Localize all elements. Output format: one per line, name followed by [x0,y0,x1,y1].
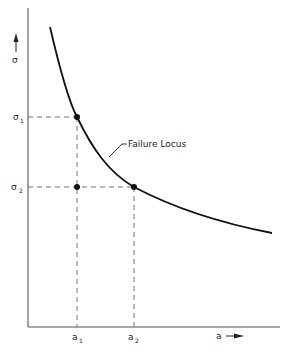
svg-text:a: a [128,332,134,342]
y-axis-label: σ [12,55,18,65]
svg-text:2: 2 [19,187,23,194]
failure-locus-leader-line [109,144,127,157]
svg-text:σ: σ [11,182,17,192]
failure-locus-label: Failure Locus [128,139,186,149]
point-a2-sigma2 [131,184,137,190]
svg-text:1: 1 [79,337,83,344]
failure-locus-diagram: σ Failure Locus σ 1 σ 2 a 1 a 2 a [0,0,295,352]
svg-text:2: 2 [135,337,139,344]
x-axis-arrow-icon [226,334,244,339]
svg-text:σ: σ [13,112,19,122]
y-tick-sigma2: σ 2 [11,182,23,194]
x-tick-a1: a 1 [72,332,83,344]
svg-text:a: a [72,332,78,342]
x-axis-label: a [216,331,222,341]
svg-text:1: 1 [20,117,24,124]
failure-locus-curve [50,27,272,233]
y-axis-arrow-icon [14,33,19,52]
y-tick-sigma1: σ 1 [13,112,24,124]
x-tick-a2: a 2 [128,332,139,344]
point-a1-sigma1 [74,114,80,120]
point-a1-sigma2 [74,184,80,190]
